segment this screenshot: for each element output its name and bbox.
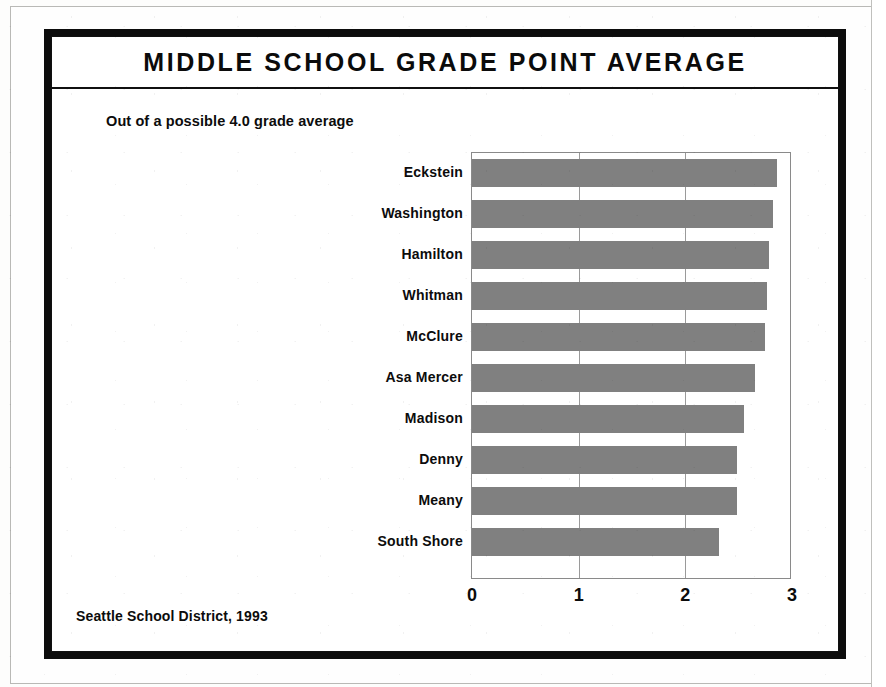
plot-box: EcksteinWashingtonHamiltonWhitmanMcClure… [471, 152, 791, 579]
bar [472, 323, 765, 351]
bar [472, 528, 719, 556]
x-tick-label: 3 [787, 585, 797, 606]
bar-category-label: Hamilton [402, 246, 464, 262]
bar-row: Washington [472, 194, 790, 235]
figure-body: MIDDLE SCHOOL GRADE POINT AVERAGE Out of… [51, 36, 839, 652]
bar-category-label: McClure [406, 328, 463, 344]
x-tick-label: 1 [574, 585, 584, 606]
bar-category-label: Asa Mercer [386, 369, 464, 385]
bar-row: Madison [472, 399, 790, 440]
bar [472, 241, 769, 269]
page-gutter [872, 0, 886, 687]
bar-row: McClure [472, 317, 790, 358]
bar [472, 282, 767, 310]
bar [472, 159, 777, 187]
bar-row: Meany [472, 481, 790, 522]
figure-frame: MIDDLE SCHOOL GRADE POINT AVERAGE Out of… [44, 29, 846, 659]
bar-category-label: Meany [418, 492, 463, 508]
bar-row: South Shore [472, 522, 790, 563]
bar-category-label: Madison [405, 410, 463, 426]
bar-category-label: Washington [381, 205, 463, 221]
bar [472, 364, 755, 392]
x-tick-label: 2 [680, 585, 690, 606]
bar-category-label: Eckstein [404, 164, 463, 180]
x-tick-label: 0 [467, 585, 477, 606]
bar-row: Asa Mercer [472, 358, 790, 399]
bar [472, 405, 744, 433]
bar-row: Denny [472, 440, 790, 481]
scanned-page: MIDDLE SCHOOL GRADE POINT AVERAGE Out of… [0, 0, 886, 687]
chart-area: EcksteinWashingtonHamiltonWhitmanMcClure… [52, 37, 838, 651]
bar-category-label: Whitman [402, 287, 463, 303]
bar-category-label: South Shore [378, 533, 463, 549]
bar [472, 446, 737, 474]
bar [472, 200, 773, 228]
bar-category-label: Denny [419, 451, 463, 467]
bar-row: Whitman [472, 276, 790, 317]
source-note: Seattle School District, 1993 [76, 608, 268, 624]
bar [472, 487, 737, 515]
bar-row: Hamilton [472, 235, 790, 276]
bar-row: Eckstein [472, 153, 790, 194]
